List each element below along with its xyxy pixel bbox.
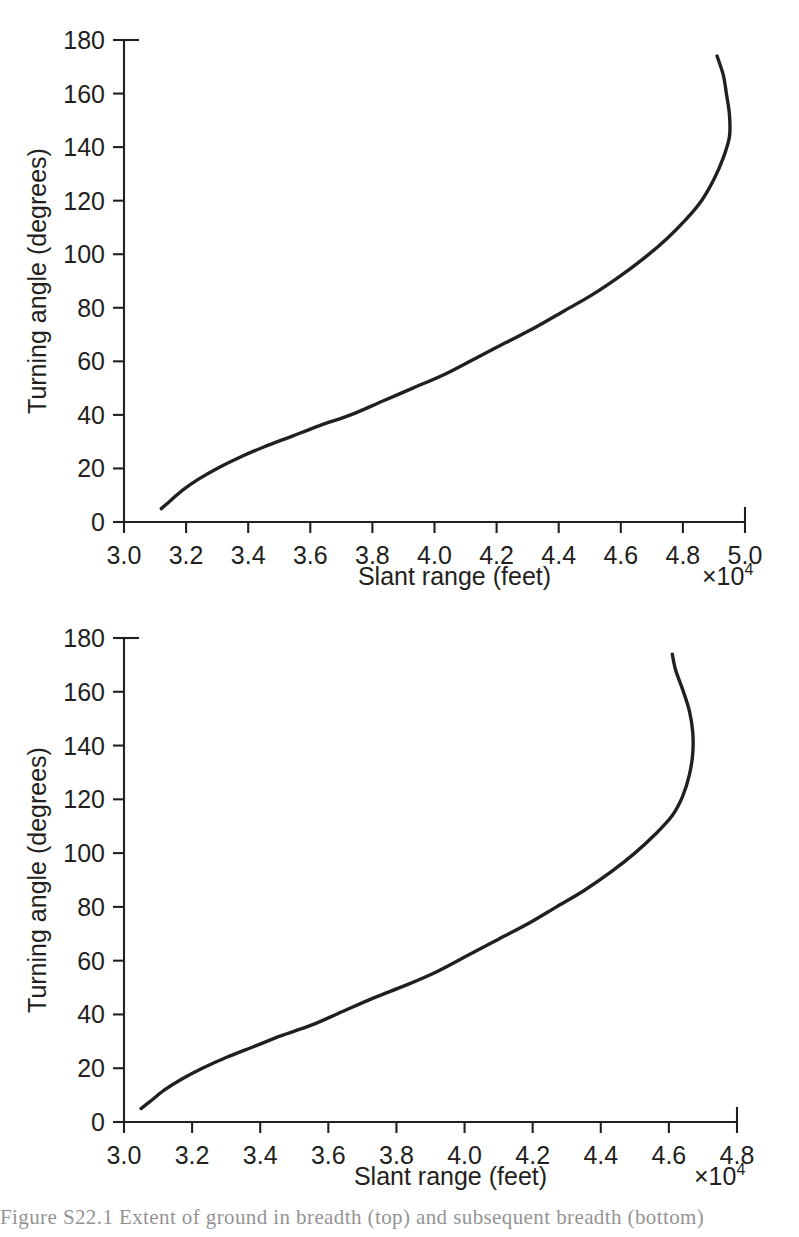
x-tick-label: 3.0 [107, 1141, 142, 1169]
x-tick-label: 3.2 [175, 1141, 210, 1169]
data-curve [161, 56, 730, 509]
y-tick-label: 140 [63, 732, 105, 760]
y-tick-label: 80 [77, 893, 105, 921]
x-tick-label: 3.6 [293, 541, 328, 569]
x-tick-label: 3.4 [243, 1141, 278, 1169]
y-tick-label: 20 [77, 454, 105, 482]
x-tick-label: 4.6 [603, 541, 638, 569]
x-tick-label: 4.8 [666, 541, 701, 569]
y-tick-label: 180 [63, 26, 105, 54]
x-axis-multiplier: ×104 [702, 561, 753, 590]
y-tick-label: 180 [63, 624, 105, 652]
y-axis-title: Turning angle (degrees) [23, 148, 51, 414]
y-tick-label: 120 [63, 785, 105, 813]
x-axis-title: Slant range (feet) [358, 562, 551, 590]
y-tick-label: 0 [91, 1108, 105, 1136]
x-tick-label: 3.0 [107, 541, 142, 569]
y-tick-label: 100 [63, 240, 105, 268]
figure-container: 0204060801001201401601803.03.23.43.63.84… [0, 0, 799, 1237]
figure-caption: Figure S22.1 Extent of ground in breadth… [0, 1205, 799, 1230]
y-tick-label: 100 [63, 839, 105, 867]
x-tick-label: 3.6 [311, 1141, 346, 1169]
data-curve [141, 654, 693, 1108]
x-tick-label: 3.2 [169, 541, 204, 569]
y-tick-label: 160 [63, 80, 105, 108]
chart-panel-bottom: 0204060801001201401601803.03.23.43.63.84… [0, 600, 799, 1200]
x-tick-label: 4.4 [583, 1141, 618, 1169]
x-axis-multiplier: ×104 [694, 1161, 745, 1190]
y-tick-label: 160 [63, 678, 105, 706]
x-axis-title: Slant range (feet) [354, 1162, 547, 1190]
x-tick-label: 3.4 [231, 541, 266, 569]
chart-top-svg: 0204060801001201401601803.03.23.43.63.84… [0, 0, 799, 600]
y-tick-label: 60 [77, 947, 105, 975]
y-tick-label: 40 [77, 401, 105, 429]
chart-panel-top: 0204060801001201401601803.03.23.43.63.84… [0, 0, 799, 600]
x-tick-label: 4.6 [652, 1141, 687, 1169]
chart-bottom-svg: 0204060801001201401601803.03.23.43.63.84… [0, 600, 799, 1200]
y-tick-label: 140 [63, 133, 105, 161]
y-tick-label: 40 [77, 1000, 105, 1028]
y-tick-label: 0 [91, 508, 105, 536]
y-tick-label: 20 [77, 1054, 105, 1082]
y-tick-label: 60 [77, 347, 105, 375]
y-tick-label: 120 [63, 187, 105, 215]
y-tick-label: 80 [77, 294, 105, 322]
y-axis-title: Turning angle (degrees) [23, 747, 51, 1013]
